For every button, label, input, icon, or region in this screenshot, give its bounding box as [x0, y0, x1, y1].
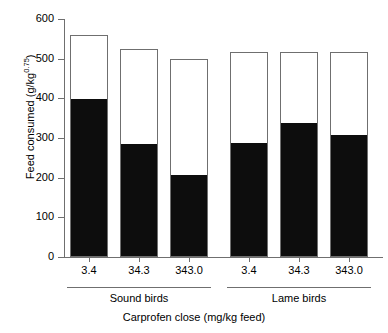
y-axis-tick-label: 400 [20, 92, 54, 103]
bar-5 [280, 52, 318, 257]
y-axis-label-main: Feed consumed (g/kg [24, 73, 36, 179]
bar-3 [170, 59, 208, 257]
y-axis-tick-label: 600 [20, 13, 54, 24]
bar-1 [70, 35, 108, 257]
x-axis-tick [189, 257, 190, 262]
bar-filled-segment [171, 175, 207, 256]
plot-area [64, 19, 383, 257]
y-axis-tick-label: 300 [20, 132, 54, 143]
group-label: Sound birds [69, 292, 209, 305]
y-axis-tick-label: 0 [20, 251, 54, 262]
bar-filled-segment [71, 99, 107, 256]
y-axis-tick-label: 100 [20, 211, 54, 222]
bar-filled-segment [281, 123, 317, 256]
y-axis-tick-label: 200 [20, 172, 54, 183]
y-axis-label: Feed consumed (g/kg0.75) [22, 22, 36, 212]
x-axis-title: Carprofen close (mg/kg feed) [0, 311, 388, 323]
x-axis-tick [299, 257, 300, 262]
y-axis-tick [58, 257, 64, 258]
group-rule [67, 287, 211, 288]
bar-4 [230, 52, 268, 257]
x-axis-tick [249, 257, 250, 262]
y-axis-tick-label: 500 [20, 53, 54, 64]
group-label: Lame birds [229, 292, 369, 305]
bar-filled-segment [231, 143, 267, 256]
x-axis-tick-label: 343.0 [159, 264, 219, 276]
bar-6 [330, 52, 368, 257]
bar-2 [120, 49, 158, 257]
x-axis-line [64, 257, 383, 258]
x-axis-tick [89, 257, 90, 262]
x-axis-tick [349, 257, 350, 262]
bar-filled-segment [331, 135, 367, 256]
x-axis-tick [139, 257, 140, 262]
x-axis-tick-label: 343.0 [319, 264, 379, 276]
bar-filled-segment [121, 144, 157, 256]
group-rule [227, 287, 371, 288]
chart-figure: Feed consumed (g/kg0.75) 600500400300200… [0, 0, 388, 333]
